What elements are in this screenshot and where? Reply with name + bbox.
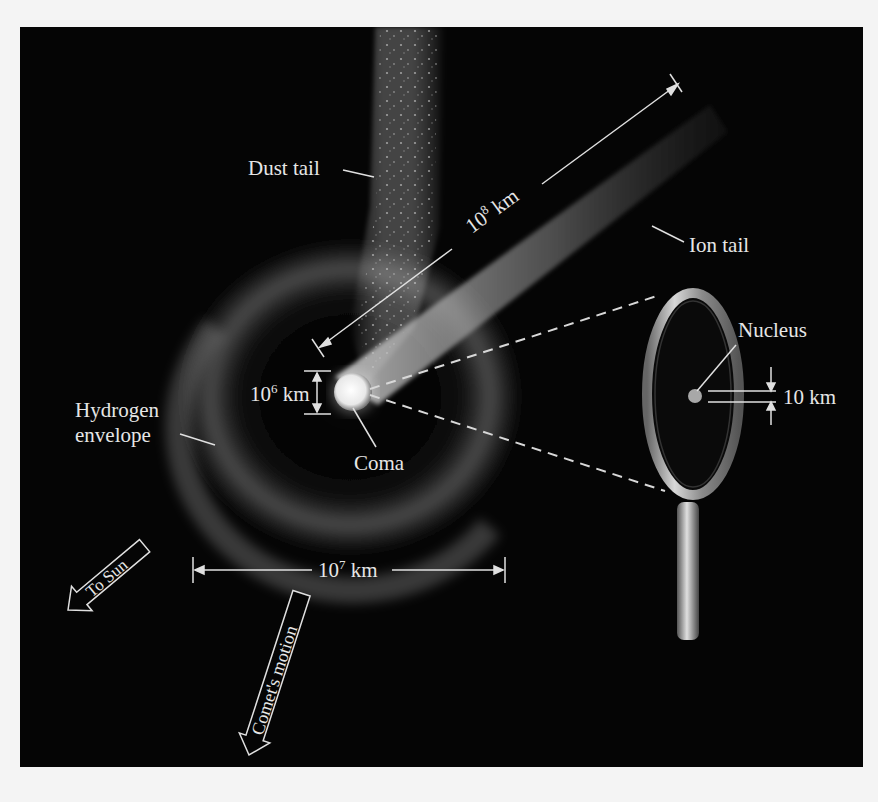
nucleus-label: Nucleus	[738, 318, 807, 342]
comet-motion-label: Comet's motion	[247, 623, 301, 737]
hydrogen-envelope-label-line1: Hydrogen	[75, 398, 159, 422]
coma	[331, 370, 375, 414]
hydrogen-envelope-label-line2: envelope	[75, 423, 151, 447]
diagram-canvas: 108 km Dust tail Ion tail 106 km Coma Hy…	[20, 27, 863, 767]
coma-size-label: 106 km	[250, 381, 310, 406]
arrow-comet-motion-icon: Comet's motion	[234, 588, 317, 760]
dust-tail-label: Dust tail	[248, 156, 320, 180]
to-sun-label: To Sun	[82, 555, 132, 601]
envelope-size-label: 107 km	[318, 557, 378, 582]
arrow-to-sun-icon: To Sun	[58, 533, 155, 622]
magnifying-glass-icon	[647, 293, 739, 640]
coma-label: Coma	[354, 451, 405, 475]
tail-length-label: 108 km	[460, 183, 523, 238]
comet-diagram: 108 km Dust tail Ion tail 106 km Coma Hy…	[20, 27, 863, 767]
ion-tail-label: Ion tail	[689, 233, 749, 257]
dust-tail-leader	[343, 170, 374, 177]
nucleus	[688, 389, 702, 403]
nucleus-size-label: 10 km	[783, 385, 836, 409]
ion-tail-leader	[652, 226, 684, 242]
